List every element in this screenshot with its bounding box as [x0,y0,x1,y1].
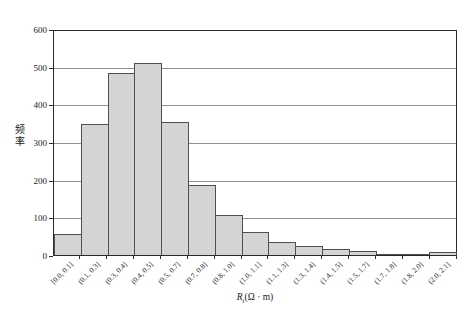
histogram-bar-(0.7, 0.8] [188,185,216,255]
y-tick-mark [49,68,53,69]
y-axis-title: 频率 [11,124,26,148]
x-category-label-(1.0, 1.1]: (1.0, 1.1] [237,260,263,286]
y-tick-label-600: 600 [13,26,47,35]
x-category-label-(1.7, 1.8]: (1.7, 1.8] [372,260,398,286]
x-tick-mark [187,256,188,259]
histogram-bar-(1.3, 1.4] [295,246,323,255]
y-tick-label-400: 400 [13,101,47,110]
x-axis-title: Rt(Ω · m) [53,292,457,305]
x-category-label-(1.3, 1.4]: (1.3, 1.4] [291,260,317,286]
histogram-bar-(0.5, 0.7] [161,122,189,255]
x-category-label-[0.0, 0.1]: [0.0, 0.1] [49,260,75,286]
x-tick-mark [160,256,161,259]
x-tick-mark [133,256,134,259]
x-tick-mark [375,256,376,259]
x-tick-mark [267,256,268,259]
bars-layer [54,31,456,255]
x-category-label-(0.3, 0.4]: (0.3, 0.4] [103,260,129,286]
x-tick-mark [348,256,349,259]
y-tick-mark [49,218,53,219]
x-axis-unit: (Ω · m) [245,292,274,302]
x-tick-mark [79,256,80,259]
y-tick-mark [49,30,53,31]
y-tick-label-500: 500 [13,64,47,73]
x-category-label-(0.1, 0.3]: (0.1, 0.3] [76,260,102,286]
histogram-bar-(1.1, 1.3] [268,242,296,255]
x-tick-mark [429,256,430,259]
y-tick-label-200: 200 [13,177,47,186]
y-tick-label-100: 100 [13,214,47,223]
histogram-bar-(1.5, 1.7] [349,251,377,255]
histogram-figure: 0100200300400500600 [0.0, 0.1](0.1, 0.3]… [0,0,475,334]
histogram-bar-[0.0, 0.1] [54,234,82,255]
histogram-bar-(2.0, 2.1] [429,252,457,255]
histogram-bar-(1.4, 1.5] [322,249,350,255]
x-category-label-(0.8, 1.0]: (0.8, 1.0] [210,260,236,286]
x-tick-mark [321,256,322,259]
histogram-bar-(1.8, 2.0] [402,254,430,255]
y-tick-label-0: 0 [13,252,47,261]
x-category-label-(0.5, 0.7]: (0.5, 0.7] [156,260,182,286]
histogram-bar-(0.1, 0.3] [81,124,109,255]
plot-area [53,30,457,256]
y-tick-mark [49,105,53,106]
x-category-label-(1.4, 1.5]: (1.4, 1.5] [318,260,344,286]
x-category-label-(1.5, 1.7]: (1.5, 1.7] [345,260,371,286]
y-tick-mark [49,143,53,144]
x-category-label-(0.4, 0.5]: (0.4, 0.5] [130,260,156,286]
histogram-bar-(1.0, 1.1] [242,232,270,255]
histogram-bar-(1.7, 1.8] [376,254,404,255]
x-tick-mark [402,256,403,259]
y-tick-mark [49,256,53,257]
histogram-bar-(0.8, 1.0] [215,215,243,255]
x-category-label-(0.7, 0.8]: (0.7, 0.8] [183,260,209,286]
x-category-label-(1.8, 2.0]: (1.8, 2.0] [399,260,425,286]
x-tick-mark [294,256,295,259]
histogram-bar-(0.4, 0.5] [134,63,162,255]
histogram-bar-(0.3, 0.4] [108,73,136,255]
x-tick-mark [214,256,215,259]
x-tick-mark [456,256,457,259]
x-category-label-(1.1, 1.3]: (1.1, 1.3] [264,260,290,286]
x-tick-mark [106,256,107,259]
x-tick-mark [241,256,242,259]
y-tick-mark [49,181,53,182]
x-category-label-(2.0, 2.1]: (2.0, 2.1] [426,260,452,286]
